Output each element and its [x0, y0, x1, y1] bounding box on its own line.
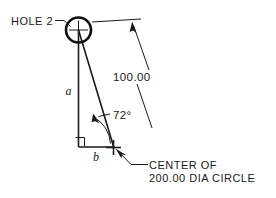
hole-2-circle-group: [66, 18, 91, 43]
drawing-canvas: HOLE 2 100.00 72° a b: [0, 0, 276, 198]
dimension-line-lower-segment: [137, 84, 152, 128]
right-angle-symbol: [76, 138, 85, 147]
center-note-leader: [116, 149, 149, 165]
dimension-arrowhead-upper: [130, 22, 137, 34]
center-note-line-1: CENTER OF: [149, 159, 217, 171]
triangle-geometry: [79, 30, 115, 148]
linear-dimension-label: 100.00: [113, 71, 151, 83]
angle-arrowhead: [92, 114, 100, 124]
horizontal-leg-label: b: [93, 150, 99, 164]
angle-dimension-label: 72°: [113, 109, 132, 121]
engineering-drawing: HOLE 2 100.00 72° a b: [0, 0, 276, 198]
center-note-line-2: 200.00 DIA CIRCLE: [149, 172, 255, 184]
vertical-leg-label: a: [66, 84, 72, 98]
hole-2-label: HOLE 2: [11, 15, 53, 27]
hypotenuse-line: [79, 30, 115, 148]
extension-line-upper: [92, 19, 141, 22]
